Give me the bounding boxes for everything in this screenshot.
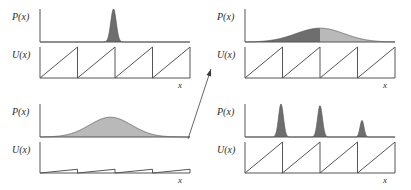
p-panel-top-left: P(x) — [11, 9, 190, 42]
x-axis-label-top-right: x — [382, 80, 387, 90]
u-panel-bottom-right: U(x)x — [217, 142, 395, 185]
p-panel-bottom-right: P(x) — [216, 104, 395, 137]
arrow-shaft — [188, 69, 211, 139]
p-panel-bottom-left: P(x) — [11, 104, 190, 137]
u-axis-label-top-right: U(x) — [217, 49, 236, 61]
density-fill-bottom-left — [40, 117, 190, 137]
potential-curve-top-right — [245, 47, 395, 78]
u-panel-top-left: U(x)x — [12, 47, 190, 90]
p-panel-top-right: P(x) — [216, 9, 395, 42]
p-axis-label-top-left: P(x) — [11, 11, 30, 23]
washboard-potential-figure: P(x)U(x)xP(x)U(x)xP(x)U(x)xP(x)U(x)x — [0, 0, 411, 190]
figure-canvas: P(x)U(x)xP(x)U(x)xP(x)U(x)xP(x)U(x)x — [0, 0, 411, 190]
panel-bottom-left: P(x)U(x)x — [11, 104, 190, 185]
u-panel-top-right: U(x)x — [217, 47, 395, 90]
x-axis-label-bottom-right: x — [382, 175, 387, 185]
panel-bottom-right: P(x)U(x)x — [216, 104, 395, 185]
x-axis-label-top-left: x — [177, 80, 182, 90]
density-fill-light-top-right — [245, 28, 395, 42]
panel-top-left: P(x)U(x)x — [11, 9, 190, 90]
p-axis-label-bottom-left: P(x) — [11, 106, 30, 118]
u-panel-bottom-left: U(x)x — [12, 142, 190, 185]
x-axis-label-bottom-left: x — [177, 175, 182, 185]
potential-curve-top-left — [40, 47, 190, 78]
u-axis-label-bottom-left: U(x) — [12, 144, 31, 156]
potential-curve-bottom-right — [245, 142, 395, 173]
p-axis-label-top-right: P(x) — [216, 11, 235, 23]
u-axis-label-bottom-right: U(x) — [217, 144, 236, 156]
diagonal-arrow — [188, 69, 211, 139]
panel-top-right: P(x)U(x)x — [216, 9, 395, 90]
arrow-head — [207, 69, 212, 76]
p-axis-label-bottom-right: P(x) — [216, 106, 235, 118]
potential-curve-bottom-left — [40, 169, 190, 173]
density-fill-bottom-right — [245, 104, 395, 137]
u-axis-label-top-left: U(x) — [12, 49, 31, 61]
